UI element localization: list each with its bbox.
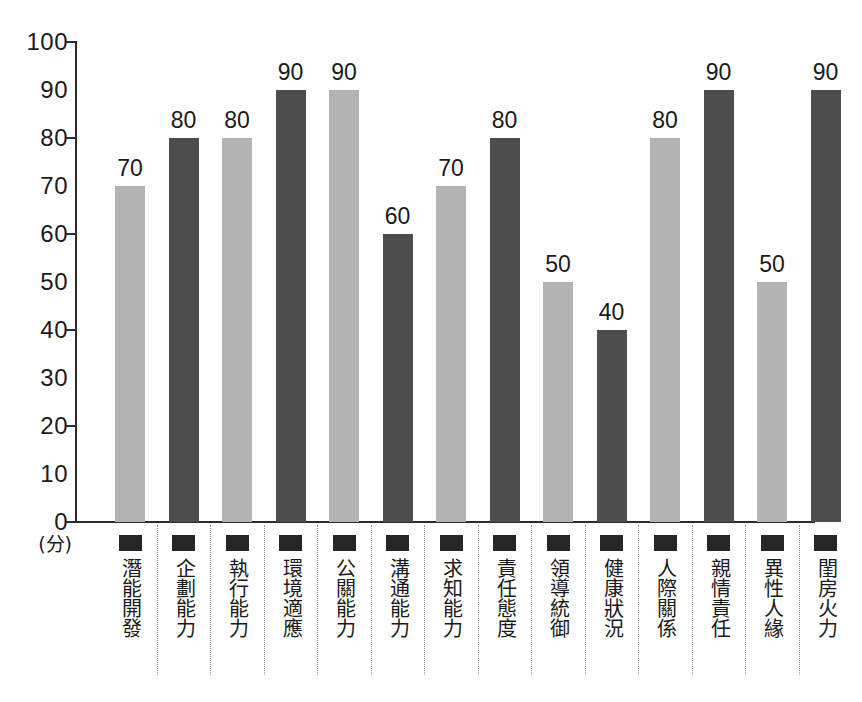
x-axis-category-label: 責任態度 — [493, 558, 516, 638]
x-axis-category-label: 環境適應 — [279, 558, 302, 638]
category-label-slot: 人際關係 — [639, 529, 691, 642]
category-label-slot: 潛能開發 — [104, 529, 156, 642]
bar-value-label: 70 — [98, 157, 162, 180]
filled-square-marker-icon — [600, 535, 623, 551]
filled-square-marker-icon — [386, 535, 409, 551]
bar[interactable] — [757, 282, 787, 522]
category-label-slot: 公關能力 — [318, 529, 370, 642]
filled-square-marker-icon — [172, 535, 195, 551]
category-label-slot: 健康狀況 — [586, 529, 638, 642]
bar-slot: 90 — [318, 42, 370, 522]
bar[interactable] — [169, 138, 199, 522]
filled-square-marker-icon — [226, 535, 249, 551]
category-label-slot: 溝通能力 — [372, 529, 424, 642]
bar-slot: 90 — [265, 42, 317, 522]
y-axis-tick-label: 60 — [6, 222, 68, 246]
filled-square-marker-icon — [493, 535, 516, 551]
bar-slot: 80 — [479, 42, 531, 522]
bar[interactable] — [597, 330, 627, 522]
x-axis-category-label: 執行能力 — [226, 558, 249, 638]
y-axis-tick-label: 20 — [6, 414, 68, 438]
bar[interactable] — [543, 282, 573, 522]
x-axis-category-label: 潛能開發 — [119, 558, 142, 638]
y-axis-tick-label: 10 — [6, 462, 68, 486]
y-axis-tick-label: 100 — [6, 30, 68, 54]
bar-slot: 80 — [211, 42, 263, 522]
bar-slot: 90 — [693, 42, 745, 522]
bar-value-label: 80 — [473, 109, 537, 132]
bar-slot: 60 — [372, 42, 424, 522]
bar-chart: 1009080706050403020100 (分) 7080809090607… — [0, 0, 862, 702]
filled-square-marker-icon — [707, 535, 730, 551]
bar-value-label: 80 — [633, 109, 697, 132]
y-axis-tick-label: 50 — [6, 270, 68, 294]
filled-square-marker-icon — [761, 535, 784, 551]
bar-value-label: 90 — [687, 61, 751, 84]
bar[interactable] — [811, 90, 841, 522]
x-axis-category-label: 健康狀況 — [600, 558, 623, 638]
bar[interactable] — [115, 186, 145, 522]
y-axis-tick-label: 90 — [6, 78, 68, 102]
bar[interactable] — [329, 90, 359, 522]
y-axis-tick-label: 70 — [6, 174, 68, 198]
bar-value-label: 60 — [366, 205, 430, 228]
category-label-slot: 執行能力 — [211, 529, 263, 642]
x-axis-category-label: 異性人緣 — [761, 558, 784, 638]
bar-value-label: 40 — [580, 301, 644, 324]
category-label-slot: 責任態度 — [479, 529, 531, 642]
filled-square-marker-icon — [654, 535, 677, 551]
category-label-slot: 異性人緣 — [746, 529, 798, 642]
bar-value-label: 70 — [419, 157, 483, 180]
category-label-slot: 企劃能力 — [158, 529, 210, 642]
y-axis-tick-label: 40 — [6, 318, 68, 342]
filled-square-marker-icon — [279, 535, 302, 551]
bar-slot: 80 — [158, 42, 210, 522]
bar-slot: 80 — [639, 42, 691, 522]
y-axis-tick-label: 30 — [6, 366, 68, 390]
category-label-slot: 環境適應 — [265, 529, 317, 642]
bar-slot: 90 — [800, 42, 852, 522]
x-axis-category-label: 人際關係 — [654, 558, 677, 638]
category-label-slot: 領導統御 — [532, 529, 584, 642]
bar-slot: 50 — [532, 42, 584, 522]
filled-square-marker-icon — [440, 535, 463, 551]
category-label-slot: 閨房火力 — [800, 529, 852, 642]
x-axis-category-label: 公關能力 — [333, 558, 356, 638]
x-axis-category-label: 領導統御 — [547, 558, 570, 638]
category-label-slot: 求知能力 — [425, 529, 477, 642]
bar[interactable] — [490, 138, 520, 522]
y-axis-unit-label: (分) — [6, 534, 72, 554]
bar[interactable] — [222, 138, 252, 522]
bar-slot: 40 — [586, 42, 638, 522]
bar-value-label: 50 — [526, 253, 590, 276]
x-axis-category-label: 親情責任 — [707, 558, 730, 638]
bar-value-label: 80 — [205, 109, 269, 132]
x-axis-category-label: 求知能力 — [440, 558, 463, 638]
filled-square-marker-icon — [119, 535, 142, 551]
bar[interactable] — [276, 90, 306, 522]
x-axis-category-label: 閨房火力 — [814, 558, 837, 638]
plot-area: 7080809090607080504080905090 — [75, 42, 815, 522]
filled-square-marker-icon — [547, 535, 570, 551]
filled-square-marker-icon — [333, 535, 356, 551]
x-axis-category-label: 企劃能力 — [172, 558, 195, 638]
bar-value-label: 50 — [740, 253, 804, 276]
bar-slot: 70 — [104, 42, 156, 522]
category-label-slot: 親情責任 — [693, 529, 745, 642]
y-axis: 1009080706050403020100 — [0, 0, 68, 702]
bar-value-label: 90 — [312, 61, 376, 84]
bar-slot: 50 — [746, 42, 798, 522]
bar-slot: 70 — [425, 42, 477, 522]
filled-square-marker-icon — [814, 535, 837, 551]
bar[interactable] — [436, 186, 466, 522]
bar[interactable] — [650, 138, 680, 522]
bar[interactable] — [704, 90, 734, 522]
x-axis-category-label: 溝通能力 — [386, 558, 409, 638]
y-axis-tick-label: 0 — [6, 510, 68, 534]
bar-value-label: 90 — [794, 61, 858, 84]
y-axis-tick-label: 80 — [6, 126, 68, 150]
bar[interactable] — [383, 234, 413, 522]
